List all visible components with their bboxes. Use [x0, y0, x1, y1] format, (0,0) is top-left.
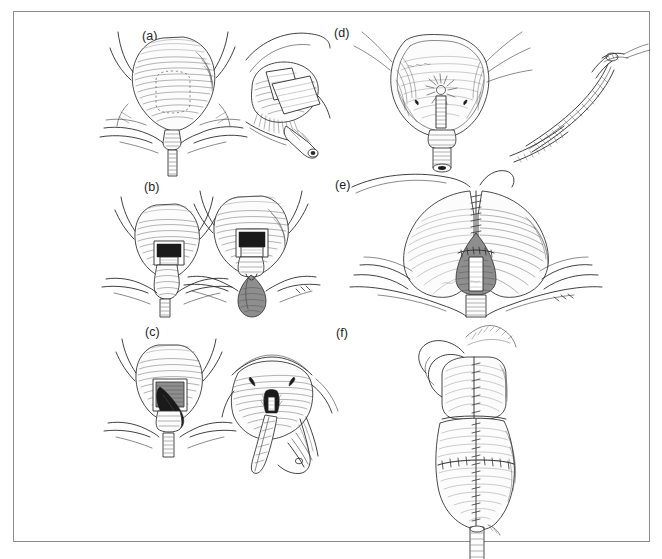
panel-f-artwork	[330, 315, 662, 542]
resection-bed-closeup	[222, 355, 338, 474]
panel-e-artwork	[330, 165, 662, 320]
oblique-retracted-view	[246, 33, 330, 158]
panel-c-artwork	[0, 315, 340, 485]
panel-e: (e)	[330, 165, 662, 320]
bladder-window-view	[102, 197, 232, 317]
panel-d: (d)	[330, 0, 662, 165]
panel-b: (b)	[0, 165, 330, 320]
panel-d-artwork	[330, 0, 662, 165]
figure-plate: (a)	[0, 0, 662, 559]
panel-a: (a)	[0, 0, 330, 165]
bladder-interior-view	[354, 32, 532, 172]
panel-f: (f)	[330, 315, 662, 542]
lower-suture-marks	[554, 294, 573, 301]
sutured-closure-view	[350, 171, 602, 317]
anterior-bladder-view	[100, 32, 247, 176]
panel-c: (c)	[0, 315, 340, 485]
panel-b-artwork	[0, 165, 330, 320]
curved-instrument-inset	[510, 44, 650, 162]
completed-pouch-view	[419, 325, 516, 559]
specimen-delivered-view	[184, 191, 320, 317]
specimen-withdrawal-view	[104, 339, 236, 457]
panel-a-artwork	[0, 0, 330, 165]
